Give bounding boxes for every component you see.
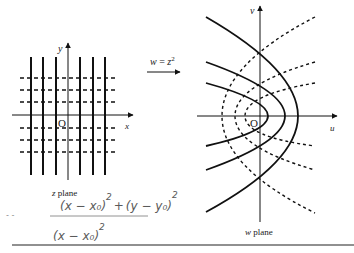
handwritten-expression: (x − x₀)2+(y − y₀)2 (x − x₀)2 - - (6, 190, 178, 243)
handwritten-numerator: (x − x₀)2+(y − y₀)2 (60, 190, 178, 213)
y-axis-label: y (57, 43, 63, 54)
w-plane-diagram: v u O w plane (197, 5, 337, 237)
z-plane-diagram: y x O z plane (12, 43, 133, 198)
handwritten-denominator: (x − x₀)2 (53, 222, 105, 243)
u-axis-label: u (330, 123, 335, 133)
w-plane-solid-parabolas (206, 17, 298, 212)
v-axis-label: v (250, 5, 255, 16)
z-plane-caption: z plane (51, 188, 77, 198)
dashed-parabola (245, 83, 315, 146)
conformal-mapping-figure: y x O z plane w = z2 v u O w plane (x − … (0, 0, 354, 253)
stray-marks: - - (6, 211, 14, 220)
mapping-label: w = z2 (150, 55, 175, 67)
solid-parabola (206, 83, 268, 146)
mapping-arrow: w = z2 (147, 55, 180, 72)
w-origin-label: O (250, 117, 258, 129)
w-plane-caption: w plane (245, 227, 273, 237)
x-axis-label: x (124, 121, 129, 131)
z-origin-label: O (58, 117, 66, 129)
